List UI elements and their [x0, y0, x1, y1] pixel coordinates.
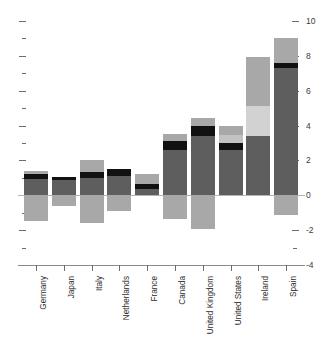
category-label-japan: Japan — [68, 276, 76, 298]
bar-segment-black-band — [163, 141, 187, 150]
bar-segment-dark-gray-main — [219, 150, 243, 195]
bar-segment-black-band — [107, 169, 131, 176]
category-tick — [286, 265, 287, 271]
bar-chart: 1086420-2-4 GermanyJapanItalyNetherlands… — [0, 0, 332, 347]
bar-segment-light-gray-neg — [24, 195, 48, 221]
category-tick — [92, 265, 93, 271]
bar-segment-light-gray-top — [274, 38, 298, 63]
bar-segment-dark-gray-main — [80, 178, 104, 195]
category-tick — [64, 265, 65, 271]
category-tick — [231, 265, 232, 271]
y-axis-tick-label: -4 — [306, 261, 314, 270]
bar-segment-black-band — [219, 143, 243, 151]
bar-segment-dark-gray-main — [52, 180, 76, 195]
bar-group[interactable] — [80, 0, 104, 347]
category-label-united-states: United States — [235, 276, 243, 325]
bar-segment-light-gray-neg — [52, 195, 76, 205]
bar-segment-mid-gray-top — [246, 57, 270, 106]
category-tick — [258, 265, 259, 271]
bar-segment-light-gray-neg — [107, 195, 131, 211]
bar-segment-dark-gray-main — [274, 68, 298, 195]
y-axis-tick-label: -2 — [306, 226, 314, 235]
category-label-italy: Italy — [96, 276, 104, 291]
y-axis-tick-label: 2 — [306, 156, 311, 165]
bar-segment-pale-gray-band — [246, 106, 270, 137]
category-label-ireland: Ireland — [262, 276, 270, 301]
y-axis-tick-label: 0 — [306, 191, 311, 200]
bar-segment-dark-gray-main — [191, 136, 215, 195]
bar-segment-light-gray-top — [80, 160, 104, 173]
category-tick — [147, 265, 148, 271]
bar-segment-black-band — [191, 126, 215, 136]
category-label-canada: Canada — [179, 276, 187, 305]
bar-segment-light-gray-neg — [274, 195, 298, 215]
y-axis-tick-label: 6 — [306, 86, 311, 95]
bar-segment-light-gray-neg — [80, 195, 104, 223]
category-label-spain: Spain — [290, 276, 298, 297]
bar-segment-light-gray-neg — [163, 195, 187, 219]
category-tick — [36, 265, 37, 271]
bar-segment-dark-gray-main — [107, 176, 131, 195]
category-label-france: France — [151, 276, 159, 301]
bar-segment-light-gray-top — [135, 174, 159, 185]
y-axis-tick-label: 4 — [306, 121, 311, 130]
category-tick — [119, 265, 120, 271]
bar-segment-dark-gray-main — [246, 136, 270, 195]
category-label-germany: Germany — [40, 276, 48, 310]
bar-segment-dark-gray-main — [135, 189, 159, 195]
bar-segment-light-gray-neg — [191, 195, 215, 229]
category-tick — [175, 265, 176, 271]
bar-segment-dark-gray-main — [163, 150, 187, 195]
category-tick — [203, 265, 204, 271]
bar-segment-dark-gray-main — [24, 179, 48, 196]
y-axis-tick-label: 8 — [306, 52, 311, 61]
category-label-netherlands: Netherlands — [123, 276, 131, 320]
y-axis-tick-label: 10 — [306, 17, 315, 26]
category-label-united-kingdom: United Kingdom — [207, 276, 215, 334]
